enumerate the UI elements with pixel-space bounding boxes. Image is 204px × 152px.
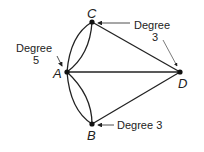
annotation-a-line2: 5 <box>33 54 39 66</box>
edges <box>67 22 180 124</box>
vertex-label-c: C <box>87 6 97 21</box>
vertex-label-a: A <box>52 66 62 81</box>
edge-a-c-1 <box>67 22 92 72</box>
graph-diagram: A C D B Degree 5 Degree 3 Degree 3 <box>0 0 204 152</box>
annotation-c-line1: Degree <box>134 19 170 31</box>
annotation-c-line2: 3 <box>152 31 158 43</box>
vertices <box>64 19 182 126</box>
vertex-label-d: D <box>178 76 187 91</box>
vertex-label-b: B <box>87 128 96 143</box>
vertex-b <box>89 121 94 126</box>
vertex-a <box>64 69 69 74</box>
edge-a-c-2 <box>67 22 92 72</box>
edge-a-b-1 <box>67 72 92 124</box>
arrow-a-icon <box>57 56 62 66</box>
edge-a-b-2 <box>67 72 92 124</box>
graph-svg: A C D B Degree 5 Degree 3 Degree 3 <box>0 0 204 152</box>
edge-b-d <box>92 72 180 124</box>
arrow-d-icon <box>163 40 177 66</box>
vertex-d <box>177 69 182 74</box>
annotation-a-line1: Degree <box>16 42 52 54</box>
annotation-b: Degree 3 <box>117 119 162 131</box>
